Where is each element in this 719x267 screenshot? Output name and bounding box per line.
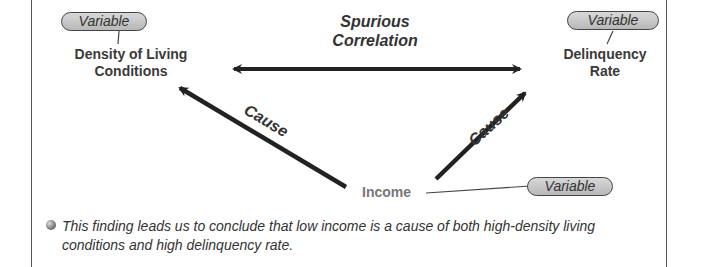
conclusion-bullet: This finding leads us to conclude that l… <box>48 217 658 255</box>
node-density-line-2: Conditions <box>56 63 206 80</box>
bullet-icon <box>46 220 56 230</box>
node-income: Income <box>362 184 411 200</box>
spurious-line-1: Spurious <box>290 12 460 31</box>
node-delinquency-line-1: Delinquency <box>545 46 665 63</box>
node-density-of-living-conditions: Density of Living Conditions <box>56 46 206 80</box>
node-delinquency-rate: Delinquency Rate <box>545 46 665 80</box>
conclusion-text: This finding leads us to conclude that l… <box>48 217 658 255</box>
variable-tag-income: Variable <box>527 177 613 196</box>
spurious-correlation-label: Spurious Correlation <box>290 12 460 50</box>
variable-tag-delinquency: Variable <box>567 11 659 30</box>
variable-tag-density: Variable <box>61 12 147 31</box>
node-delinquency-line-2: Rate <box>545 63 665 80</box>
node-density-line-1: Density of Living <box>56 46 206 63</box>
spurious-line-2: Correlation <box>290 31 460 50</box>
